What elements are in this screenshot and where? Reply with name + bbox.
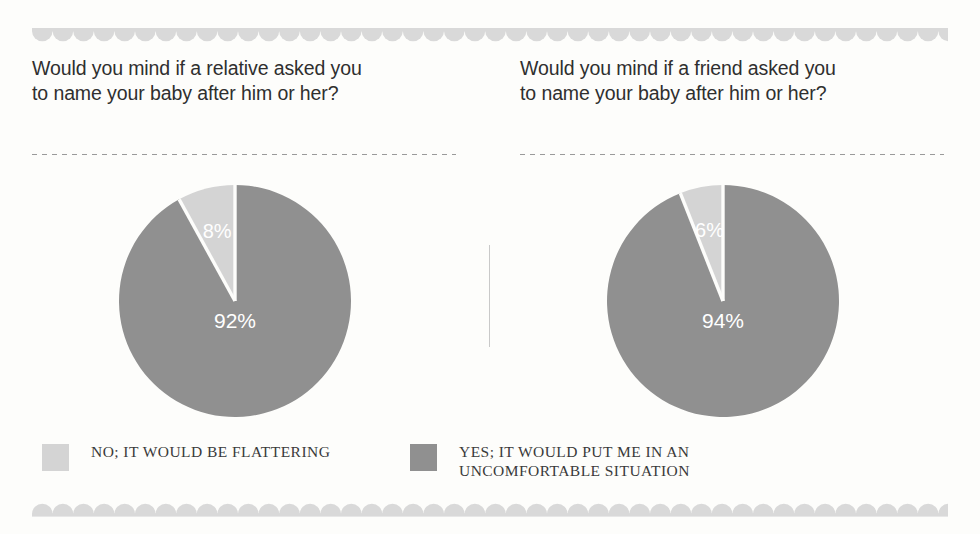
legend-item-yes: YES; IT WOULD PUT ME IN AN UNCOMFORTABLE… — [410, 443, 690, 480]
panel-relative: Would you mind if a relative asked you t… — [32, 56, 462, 426]
pie-relative-dark-label: 92% — [214, 309, 256, 332]
legend-label-no: NO; IT WOULD BE FLATTERING — [91, 443, 330, 462]
pie-friend-dark-label: 94% — [702, 309, 744, 332]
chart-legend: NO; IT WOULD BE FLATTERING YES; IT WOULD… — [42, 443, 942, 489]
scallop-border-bottom-icon — [32, 500, 948, 518]
legend-swatch-yes-icon — [410, 444, 437, 471]
pie-chart-friend: 6% 94% — [606, 184, 840, 418]
panel-relative-dashed-rule — [32, 154, 456, 155]
infographic-page: Would you mind if a relative asked you t… — [0, 0, 980, 534]
panel-relative-heading: Would you mind if a relative asked you t… — [32, 56, 462, 106]
legend-item-no: NO; IT WOULD BE FLATTERING — [42, 443, 330, 471]
pie-relative-light-label: 8% — [203, 220, 232, 242]
pie-chart-relative: 8% 92% — [118, 184, 352, 418]
panel-friend: Would you mind if a friend asked you to … — [520, 56, 950, 426]
pie-friend-light-label: 6% — [695, 219, 724, 241]
panel-friend-heading: Would you mind if a friend asked you to … — [520, 56, 950, 106]
panel-vertical-divider — [489, 245, 490, 347]
legend-label-yes: YES; IT WOULD PUT ME IN AN UNCOMFORTABLE… — [459, 443, 690, 480]
scallop-border-top-icon — [32, 28, 948, 46]
panel-friend-dashed-rule — [520, 154, 944, 155]
legend-swatch-no-icon — [42, 444, 69, 471]
